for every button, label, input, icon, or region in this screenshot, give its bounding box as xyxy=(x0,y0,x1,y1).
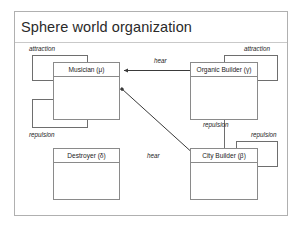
node-organic-builder-label: Organic Builder (γ) xyxy=(191,63,257,77)
arrow-hear-city-musician xyxy=(122,89,196,156)
edge-label-hear-organic-musician: hear xyxy=(154,57,167,65)
edge-label-attraction-organic: attraction xyxy=(244,45,270,53)
edge-label-repulsion-organic-city: repulsion xyxy=(203,121,229,129)
node-musician[interactable]: Musician (μ) xyxy=(53,62,120,120)
node-destroyer-label: Destroyer (δ) xyxy=(54,149,119,163)
node-musician-body xyxy=(54,77,119,119)
diagram-canvas: Sphere world organization xyxy=(0,0,304,231)
connector-layer xyxy=(0,0,304,231)
node-organic-builder-body xyxy=(191,77,257,119)
node-city-builder-label: City Builder (β) xyxy=(191,149,257,163)
edge-label-repulsion-city: repulsion xyxy=(251,131,277,139)
node-destroyer[interactable]: Destroyer (δ) xyxy=(53,148,120,200)
node-city-builder-body xyxy=(191,163,257,199)
edge-label-repulsion-musician: repulsion xyxy=(29,131,55,139)
node-organic-builder[interactable]: Organic Builder (γ) xyxy=(190,62,258,120)
node-city-builder[interactable]: City Builder (β) xyxy=(190,148,258,200)
node-musician-label: Musician (μ) xyxy=(54,63,119,77)
node-destroyer-body xyxy=(54,163,119,199)
edge-label-hear-city-musician: hear xyxy=(147,152,160,160)
edge-label-attraction-musician: attraction xyxy=(29,45,55,53)
